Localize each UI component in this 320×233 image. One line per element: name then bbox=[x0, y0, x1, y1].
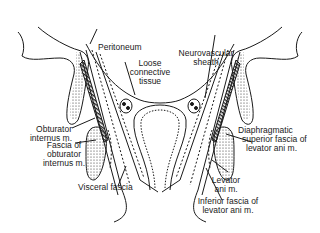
label-visceral-fascia: Visceral fascia bbox=[78, 183, 133, 192]
label-inferior-fascia-levator: Inferior fascia of levator ani m. bbox=[188, 197, 268, 215]
label-diaphragmatic-superior-fascia: Diaphragmatic superior fascia of levator… bbox=[238, 126, 307, 153]
label-levator-ani: Levator ani m. bbox=[204, 176, 248, 194]
label-fascia-obturator-internus: Fascia of obturator internus m. bbox=[34, 141, 94, 168]
left-perineum-curve bbox=[114, 190, 126, 222]
left-neurovascular-sheath bbox=[120, 99, 132, 113]
right-neurovascular-sheath bbox=[188, 99, 200, 113]
label-neurovascular-sheath: Neurovascular sheath bbox=[166, 49, 246, 67]
visceral-loop-outer bbox=[134, 105, 186, 190]
visceral-loop-inner bbox=[141, 110, 179, 188]
anatomy-diagram: Peritoneum Loose connective tissue Neuro… bbox=[0, 0, 320, 233]
label-peritoneum: Peritoneum bbox=[98, 43, 141, 52]
pelvic-fascia-drawing bbox=[0, 0, 320, 233]
